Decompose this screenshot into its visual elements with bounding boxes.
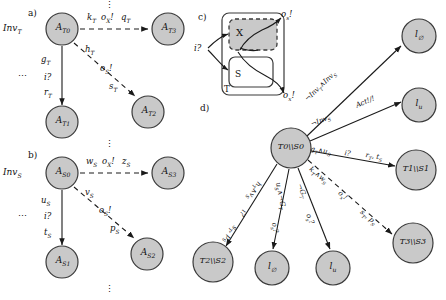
node-label-l0-bot: l∅ — [257, 262, 287, 273]
panel-b-vdots-top: ⋮ — [0, 140, 221, 149]
diagram-canvas — [0, 0, 446, 300]
edge-label-b-oS: oS! — [99, 206, 112, 217]
node-label-AS1: AS1 — [48, 256, 78, 267]
edge-label-a-rT: rT — [44, 88, 52, 99]
edge-label-a-oX: oX! — [101, 13, 114, 24]
node-label-l0-top: l∅ — [404, 30, 434, 41]
arrow-in-to-X — [208, 34, 228, 48]
panel-d-tag: d) — [200, 103, 209, 113]
node-label-lu-top: lu — [404, 99, 434, 110]
edge-label-a-qT: qT — [121, 13, 130, 24]
panel-b-tag: b) — [28, 150, 37, 160]
edge-label-a-gT: gT — [41, 55, 50, 66]
node-label-T0S0: T0\\S0 — [268, 143, 314, 151]
node-label-T2S2: T2\\S2 — [190, 257, 236, 265]
panel-c-tag: c) — [198, 12, 207, 22]
panel-b-invariant: InvS — [3, 168, 22, 179]
node-label-AS0: AS0 — [48, 167, 78, 178]
panel-a-vdots-top: ⋮ — [0, 1, 221, 10]
edge-label-b-vS: vS — [85, 188, 94, 199]
edge-label-a-i: i? — [44, 73, 51, 82]
node-label-T1S1: T1\\S1 — [393, 165, 439, 173]
edge-label-b-i: i? — [44, 212, 51, 221]
edge-label-d-i-query-1: i? — [344, 150, 351, 158]
panel-c-box-s-label: S — [235, 70, 241, 79]
edge-label-b-oX: oX! — [102, 157, 115, 168]
figure-root: a) InvT ⋮ AT0 AT3 AT1 AT2 kT oX! qT gT i… — [0, 0, 446, 300]
edge-label-b-pS: pS — [110, 224, 119, 235]
panel-b-hdots: ⋯ — [18, 212, 27, 221]
panel-c-out-os-label: os! — [281, 10, 293, 21]
panel-a-invariant: InvT — [3, 24, 22, 35]
node-label-AS3: AS3 — [154, 167, 184, 178]
node-label-lu-bot: lu — [318, 262, 348, 273]
edge-label-b-wS: wS — [86, 157, 97, 168]
panel-c-out-ox-label: ox! — [283, 91, 295, 102]
edge-label-b-zS: zS — [122, 157, 130, 168]
edge-label-a-hT: hT — [85, 45, 94, 56]
panel-b-vdots-bottom: ⋮ — [0, 285, 221, 294]
edge-label-b-tS: tS — [44, 228, 51, 239]
panel-c-box-t-label: T — [224, 85, 230, 94]
arrow-in-to-S — [208, 50, 228, 70]
node-label-AT1: AT1 — [48, 116, 78, 127]
edge-label-a-sT: sT — [109, 82, 117, 93]
node-label-AT3: AT3 — [154, 23, 184, 34]
edge-label-a-oS: oS! — [100, 64, 113, 75]
edge-label-d-oS-query-2: os? — [268, 222, 279, 234]
node-label-AT2: AT2 — [134, 106, 164, 117]
panel-c-input-label: i? — [194, 44, 201, 53]
node-label-AS2: AS2 — [133, 248, 163, 259]
edge-label-b-uS: uS — [41, 196, 50, 207]
node-label-T3S3: T3\\S3 — [390, 238, 436, 246]
panel-a-hdots: ⋯ — [18, 72, 27, 81]
node-label-AT0: AT0 — [48, 23, 78, 34]
panel-c-box-x-label: X — [236, 28, 243, 38]
edge-label-a-kT: kT — [87, 13, 96, 24]
panel-c-boxes — [208, 13, 284, 95]
